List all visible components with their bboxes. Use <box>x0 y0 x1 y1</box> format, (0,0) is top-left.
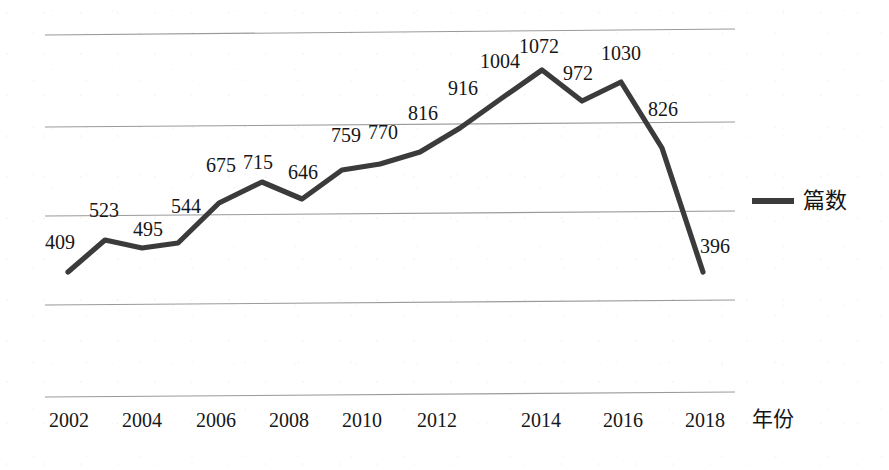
value-label: 916 <box>448 78 478 98</box>
value-label: 770 <box>368 122 398 142</box>
value-label: 1004 <box>480 51 520 71</box>
value-label: 1072 <box>519 36 559 56</box>
value-label: 495 <box>133 219 163 239</box>
legend-label-pianshu: 篇数 <box>803 190 847 212</box>
xtick-2010: 2010 <box>331 410 393 430</box>
value-label: 816 <box>408 103 438 123</box>
line-chart: 409 523 495 544 675 715 646 759 770 816 … <box>0 0 889 470</box>
series-line-pianshu <box>68 70 703 272</box>
xtick-2008: 2008 <box>258 410 320 430</box>
value-label: 1030 <box>601 43 641 63</box>
gridline <box>45 392 735 397</box>
xtick-2006: 2006 <box>185 410 247 430</box>
value-label: 715 <box>243 152 273 172</box>
x-axis-title: 年份 <box>752 409 794 430</box>
legend-line-swatch <box>752 198 794 204</box>
value-label: 409 <box>45 232 75 252</box>
gridlines <box>45 29 735 397</box>
value-label: 759 <box>331 125 361 145</box>
xtick-2014: 2014 <box>510 410 572 430</box>
value-label: 396 <box>700 236 730 256</box>
gridline <box>45 300 735 305</box>
xtick-2016: 2016 <box>592 410 654 430</box>
value-label: 544 <box>171 196 201 216</box>
value-label: 523 <box>89 200 119 220</box>
value-label: 826 <box>648 99 678 119</box>
xtick-2004: 2004 <box>111 410 173 430</box>
value-label: 972 <box>563 63 593 83</box>
value-label: 675 <box>206 155 236 175</box>
xtick-2012: 2012 <box>406 410 468 430</box>
value-label: 646 <box>288 162 318 182</box>
xtick-2002: 2002 <box>38 410 100 430</box>
chart-legend: 篇数 <box>752 190 847 212</box>
gridline <box>45 29 735 35</box>
xtick-2018: 2018 <box>674 410 736 430</box>
gridline <box>45 211 735 216</box>
